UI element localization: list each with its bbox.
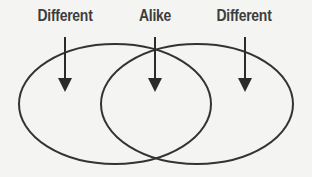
- left-set-ellipse: [19, 44, 211, 164]
- arrow-left: [58, 37, 72, 92]
- right-set-ellipse: [101, 44, 293, 164]
- arrow-right: [238, 37, 252, 92]
- venn-diagram: [0, 0, 312, 177]
- arrow-middle: [148, 37, 162, 92]
